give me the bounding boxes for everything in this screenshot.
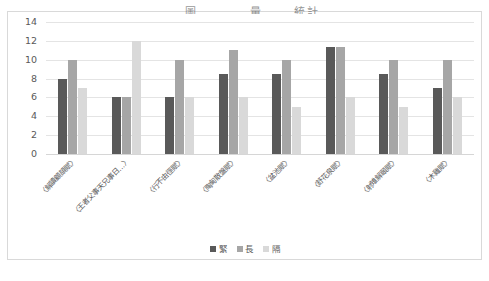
legend-label: 隔 [272, 245, 281, 254]
legend-label: 長 [245, 245, 254, 254]
bar-緊 [165, 97, 174, 154]
bar-group [260, 22, 314, 154]
bar-group [314, 22, 368, 154]
x-axis-label: 〈木雞賦〉 [423, 157, 454, 188]
bar-隔 [399, 107, 408, 154]
legend-item-隔[interactable]: 隔 [263, 245, 281, 254]
bar-隔 [346, 97, 355, 154]
bar-緊 [272, 74, 281, 154]
y-axis-tick-label: 0 [31, 149, 37, 159]
bar-隔 [78, 88, 87, 154]
bar-緊 [326, 47, 335, 154]
legend-swatch-icon [237, 246, 243, 252]
bar-長 [68, 60, 77, 154]
bar-隔 [132, 41, 141, 154]
y-axis-tick-label: 14 [25, 17, 37, 27]
y-axis-tick-label: 4 [31, 112, 37, 122]
chart-legend: 緊長隔 [8, 245, 483, 254]
bar-隔 [453, 97, 462, 154]
bar-group [100, 22, 154, 154]
x-axis-label: 〈解讀顧頡賦〉 [38, 157, 78, 197]
x-axis-label-slot: 〈射雉解頤賦〉 [367, 155, 421, 227]
bar-group [207, 22, 261, 154]
bar-緊 [379, 74, 388, 154]
bar-長 [443, 60, 452, 154]
bar-長 [282, 60, 291, 154]
bar-長 [336, 47, 345, 154]
bar-長 [389, 60, 398, 154]
legend-item-長[interactable]: 長 [237, 245, 255, 254]
y-axis-tick-label: 2 [31, 130, 37, 140]
bar-group [153, 22, 207, 154]
x-axis-label-slot: 〈木雞賦〉 [421, 155, 475, 227]
bar-長 [175, 60, 184, 154]
bar-緊 [58, 79, 67, 154]
bar-group [46, 22, 100, 154]
x-axis-label-slot: 〈陶甸散盤賦〉 [207, 155, 261, 227]
bar-長 [229, 50, 238, 154]
legend-item-緊[interactable]: 緊 [210, 245, 228, 254]
plot-area [46, 22, 474, 154]
y-axis-tick-label: 6 [31, 93, 37, 103]
bar-group [367, 22, 421, 154]
legend-swatch-icon [210, 246, 216, 252]
bar-緊 [219, 74, 228, 154]
y-axis: 14121086420 [8, 22, 42, 154]
bar-隔 [239, 97, 248, 154]
legend-label: 緊 [219, 245, 228, 254]
bar-長 [122, 97, 131, 154]
legend-swatch-icon [263, 246, 269, 252]
y-axis-tick-label: 12 [25, 36, 37, 46]
bar-groups [46, 22, 474, 154]
y-axis-tick-label: 8 [31, 74, 37, 84]
chart-title: 圖 量 統計 [8, 3, 489, 14]
bar-隔 [185, 97, 194, 154]
bar-緊 [433, 88, 442, 154]
chart-card: 圖 量 統計 14121086420 〈解讀顧頡賦〉〈王者父事天兄事日…〉〈行不… [7, 11, 482, 260]
bar-group [421, 22, 475, 154]
x-axis-label: 〈盆池賦〉 [262, 157, 293, 188]
bar-緊 [112, 97, 121, 154]
bar-隔 [292, 107, 301, 154]
y-axis-tick-label: 10 [25, 55, 37, 65]
x-axis-label-slot: 〈盆池賦〉 [260, 155, 314, 227]
x-axis-label: 〈舒花泉賦〉 [311, 157, 346, 192]
x-axis-labels: 〈解讀顧頡賦〉〈王者父事天兄事日…〉〈行不由徑賦〉〈陶甸散盤賦〉〈盆池賦〉〈舒花… [46, 155, 474, 227]
